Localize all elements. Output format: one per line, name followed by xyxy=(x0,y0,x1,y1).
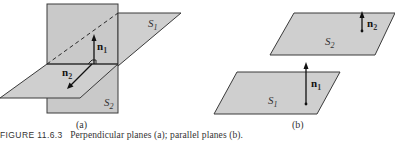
panel-b: n2 S2 n1 S1 (b) xyxy=(214,11,395,131)
base-point xyxy=(305,103,308,106)
figure-canvas: n1 n2 S1 S2 (a) n2 S2 n1 S1 (b) xyxy=(0,0,395,141)
panel-a: n1 n2 S1 S2 (a) xyxy=(0,4,181,131)
arrow-up-icon xyxy=(304,62,309,69)
figure-caption: FIGURE 11.6.3 Perpendicular planes (a); … xyxy=(0,130,243,140)
panel-label-b: (b) xyxy=(292,119,304,131)
figure-number: FIGURE 11.6.3 xyxy=(0,130,63,140)
base-point xyxy=(361,30,364,33)
caption-text: Perpendicular planes (a); parallel plane… xyxy=(70,130,243,140)
